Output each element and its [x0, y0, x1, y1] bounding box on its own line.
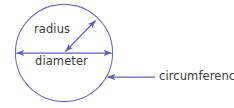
circumference-label: circumference — [159, 71, 234, 83]
diameter-label: diameter — [35, 56, 88, 68]
circle-diagram-figure: radius diameter circumference — [0, 0, 234, 108]
radius-label: radius — [34, 24, 70, 36]
